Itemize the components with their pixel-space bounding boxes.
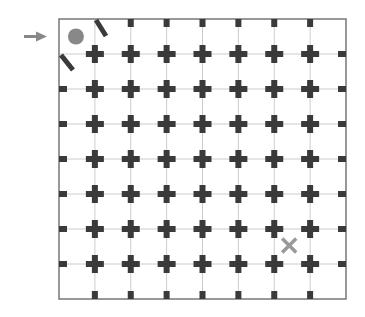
edge-peg bbox=[59, 86, 67, 92]
edge-peg bbox=[59, 261, 67, 267]
edge-peg bbox=[235, 19, 241, 27]
cross-peg bbox=[164, 115, 170, 133]
cross-peg bbox=[200, 80, 206, 98]
cross-peg bbox=[307, 185, 313, 203]
cross-peg bbox=[128, 220, 134, 238]
cross-peg bbox=[271, 80, 277, 98]
cross-peg bbox=[200, 45, 206, 63]
edge-peg bbox=[164, 19, 170, 27]
edge-peg bbox=[338, 156, 346, 162]
edge-peg bbox=[271, 19, 277, 27]
edge-peg bbox=[59, 121, 67, 127]
cross-peg bbox=[271, 150, 277, 168]
cross-peg bbox=[92, 220, 98, 238]
cross-peg bbox=[128, 150, 134, 168]
edge-peg bbox=[128, 19, 134, 27]
cross-peg bbox=[200, 255, 206, 273]
cross-peg bbox=[128, 115, 134, 133]
cross-peg bbox=[164, 255, 170, 273]
cross-peg bbox=[200, 220, 206, 238]
cross-peg bbox=[200, 115, 206, 133]
cross-peg bbox=[92, 185, 98, 203]
cross-peg bbox=[307, 45, 313, 63]
cross-peg bbox=[235, 150, 241, 168]
cross-peg bbox=[92, 80, 98, 98]
cross-peg bbox=[271, 185, 277, 203]
cross-peg bbox=[128, 80, 134, 98]
cross-peg bbox=[164, 80, 170, 98]
cross-peg bbox=[307, 150, 313, 168]
edge-peg bbox=[235, 291, 241, 299]
edge-peg bbox=[59, 156, 67, 162]
cross-peg bbox=[92, 255, 98, 273]
edge-peg bbox=[59, 226, 67, 232]
cross-peg bbox=[271, 220, 277, 238]
cross-peg bbox=[164, 220, 170, 238]
edge-peg bbox=[164, 291, 170, 299]
diagonal-wall bbox=[96, 20, 106, 36]
cross-peg bbox=[128, 185, 134, 203]
cross-peg bbox=[307, 255, 313, 273]
puzzle-board[interactable] bbox=[0, 0, 365, 317]
cross-peg bbox=[307, 115, 313, 133]
edge-peg bbox=[338, 86, 346, 92]
edge-peg bbox=[200, 19, 206, 27]
start-arrow-icon bbox=[36, 32, 47, 42]
edge-peg bbox=[338, 51, 346, 57]
cross-peg bbox=[92, 45, 98, 63]
cross-peg bbox=[164, 45, 170, 63]
edge-peg bbox=[338, 226, 346, 232]
cross-peg bbox=[271, 255, 277, 273]
cross-peg bbox=[235, 45, 241, 63]
cross-peg bbox=[271, 115, 277, 133]
player-circle-icon[interactable] bbox=[68, 29, 84, 45]
cross-peg bbox=[92, 115, 98, 133]
cross-peg bbox=[307, 220, 313, 238]
edge-peg bbox=[338, 191, 346, 197]
edge-peg bbox=[59, 191, 67, 197]
edge-peg bbox=[307, 291, 313, 299]
edge-peg bbox=[200, 291, 206, 299]
edge-peg bbox=[338, 261, 346, 267]
edge-peg bbox=[338, 121, 346, 127]
cross-peg bbox=[164, 150, 170, 168]
cross-peg bbox=[92, 150, 98, 168]
cross-peg bbox=[235, 115, 241, 133]
cross-peg bbox=[235, 185, 241, 203]
cross-peg bbox=[200, 185, 206, 203]
cross-peg bbox=[235, 220, 241, 238]
cross-peg bbox=[307, 80, 313, 98]
cross-peg bbox=[164, 185, 170, 203]
edge-peg bbox=[307, 19, 313, 27]
edge-peg bbox=[92, 291, 98, 299]
cross-peg bbox=[235, 255, 241, 273]
cross-peg bbox=[128, 45, 134, 63]
edge-peg bbox=[271, 291, 277, 299]
cross-peg bbox=[128, 255, 134, 273]
diagonal-wall bbox=[61, 55, 73, 70]
cross-peg bbox=[271, 45, 277, 63]
cross-peg bbox=[235, 80, 241, 98]
cross-peg bbox=[200, 150, 206, 168]
edge-peg bbox=[128, 291, 134, 299]
